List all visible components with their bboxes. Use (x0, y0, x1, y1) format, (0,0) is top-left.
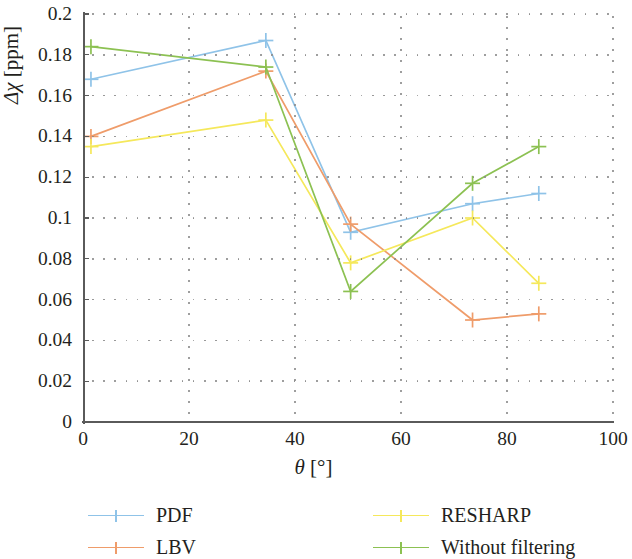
legend-marker-plus (115, 542, 117, 554)
grid-dot (188, 170, 190, 172)
grid-dot (92, 54, 94, 56)
grid-dot (188, 346, 190, 348)
x-tick-label: 0 (53, 429, 113, 449)
grid-dot (271, 54, 273, 56)
grid-dot (400, 192, 402, 194)
grid-dot (450, 258, 452, 260)
grid-dot (215, 54, 217, 56)
grid-dot (562, 136, 564, 138)
grid-dot (400, 16, 402, 18)
grid-dot (400, 302, 402, 304)
grid-dot (188, 368, 190, 370)
grid-dot (540, 258, 542, 260)
grid-dot (551, 54, 553, 56)
grid-dot (372, 13, 374, 15)
grid-dot (188, 38, 190, 40)
plot-area (83, 14, 613, 422)
grid-dot (439, 54, 441, 56)
grid-dot (400, 27, 402, 29)
grid-dot (506, 170, 508, 172)
grid-dot (92, 136, 94, 138)
grid-dot (226, 13, 228, 15)
grid-dot (612, 236, 614, 238)
grid-dot (271, 136, 273, 138)
grid-dot (159, 136, 161, 138)
grid-dot (406, 258, 408, 260)
grid-dot (294, 380, 296, 382)
grid-dot (428, 217, 430, 219)
grid-dot (506, 181, 508, 183)
grid-dot (271, 176, 273, 178)
grid-dot (188, 137, 190, 139)
grid-dot (159, 258, 161, 260)
legend-item-without-filtering[interactable]: Without filtering (373, 536, 575, 559)
grid-dot (159, 54, 161, 56)
grid-dot (182, 13, 184, 15)
grid-dot (484, 54, 486, 56)
grid-dot (406, 380, 408, 382)
series-line (91, 47, 539, 292)
grid-dot (338, 54, 340, 56)
grid-dot (574, 176, 576, 178)
grid-dot (551, 176, 553, 178)
grid-dot (114, 13, 116, 15)
grid-dot (350, 258, 352, 260)
grid-dot (506, 54, 508, 56)
grid-dot (439, 340, 441, 342)
grid-dot (103, 380, 105, 382)
grid-dot (294, 181, 296, 183)
grid-dot (294, 27, 296, 29)
grid-dot (428, 136, 430, 138)
grid-dot (294, 390, 296, 392)
grid-dot (188, 60, 190, 62)
grid-dot (562, 380, 564, 382)
grid-dot (394, 380, 396, 382)
grid-dot (294, 236, 296, 238)
grid-dot (506, 291, 508, 293)
legend-item-lbv[interactable]: LBV (88, 536, 196, 559)
legend-label: RESHARP (441, 504, 531, 527)
grid-dot (294, 280, 296, 282)
grid-dot (400, 247, 402, 249)
grid-dot (506, 379, 508, 381)
grid-dot (394, 176, 396, 178)
grid-dot (612, 225, 614, 227)
grid-dot (294, 412, 296, 414)
grid-dot (215, 258, 217, 260)
grid-dot (612, 335, 614, 337)
grid-dot (204, 217, 206, 219)
grid-dot (188, 324, 190, 326)
grid-dot (188, 291, 190, 293)
grid-dot (92, 13, 94, 15)
grid-dot (607, 340, 609, 342)
grid-dot (294, 13, 296, 15)
grid-dot (188, 390, 190, 392)
grid-dot (294, 176, 296, 178)
grid-dot (495, 258, 497, 260)
grid-dot (506, 340, 508, 342)
grid-dot (484, 176, 486, 178)
grid-dot (406, 217, 408, 219)
grid-dot (316, 258, 318, 260)
grid-dot (506, 49, 508, 51)
legend-item-resharp[interactable]: RESHARP (373, 504, 531, 527)
grid-dot (406, 176, 408, 178)
grid-dot (400, 269, 402, 271)
grid-dot (506, 159, 508, 161)
grid-dot (400, 258, 402, 260)
grid-dot (350, 176, 352, 178)
grid-dot (612, 346, 614, 348)
grid-dot (400, 236, 402, 238)
grid-dot (400, 148, 402, 150)
grid-dot (506, 247, 508, 249)
grid-dot (495, 54, 497, 56)
grid-dot (506, 38, 508, 40)
legend-swatch-icon (88, 509, 144, 523)
grid-dot (170, 258, 172, 260)
legend-item-pdf[interactable]: PDF (88, 504, 193, 527)
grid-dot (103, 54, 105, 56)
grid-dot (612, 269, 614, 271)
grid-dot (148, 258, 150, 260)
grid-dot (450, 380, 452, 382)
grid-dot (170, 217, 172, 219)
